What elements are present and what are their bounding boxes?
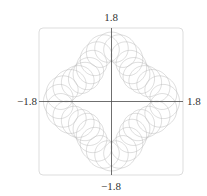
y-max-label: 1.8	[104, 11, 118, 23]
x-max-label: 1.8	[187, 95, 201, 107]
x-min-label: −1.8	[17, 95, 37, 107]
y-min-label: −1.8	[101, 180, 121, 192]
plot-area: 1.8 −1.8 −1.8 1.8	[0, 0, 207, 196]
